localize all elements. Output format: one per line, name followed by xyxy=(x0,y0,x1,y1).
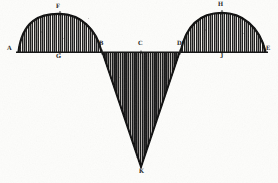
print-speck xyxy=(243,33,244,34)
print-speck xyxy=(63,38,64,39)
label-E: E xyxy=(266,46,270,53)
paper-grain xyxy=(0,0,278,183)
label-D: D xyxy=(177,41,182,48)
engraved-diagram-svg xyxy=(0,0,278,183)
label-J: J xyxy=(220,54,223,61)
print-speck xyxy=(41,31,42,33)
label-F: F xyxy=(56,4,60,11)
label-C: C xyxy=(138,41,143,48)
print-speck xyxy=(119,77,120,78)
print-speck xyxy=(150,101,151,102)
label-G: G xyxy=(56,54,61,61)
print-speck xyxy=(205,29,206,31)
label-B: B xyxy=(99,41,103,48)
label-K: K xyxy=(139,169,144,176)
label-A: A xyxy=(7,46,12,53)
print-speck xyxy=(88,18,89,19)
figure-root: A F G B C D J H E K xyxy=(0,0,278,183)
label-H: H xyxy=(218,2,223,9)
print-speck xyxy=(136,157,137,158)
